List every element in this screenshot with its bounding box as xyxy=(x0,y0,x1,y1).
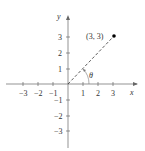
x-tick-label: 1 xyxy=(81,89,85,98)
y-tick-label: −3 xyxy=(54,127,63,136)
x-tick-label: 2 xyxy=(96,89,100,98)
y-tick-label: −2 xyxy=(54,112,63,121)
x-tick-label: 3 xyxy=(111,89,115,98)
point-marker xyxy=(112,34,116,38)
angle-arrow-icon xyxy=(83,69,86,72)
x-tick-label: −2 xyxy=(34,89,43,98)
y-axis-arrow-icon xyxy=(66,15,70,20)
y-tick-label: 1 xyxy=(58,65,62,74)
x-tick-label: −3 xyxy=(19,89,28,98)
y-axis-label: y xyxy=(56,12,61,21)
x-axis-arrow-icon xyxy=(133,82,138,86)
x-axis-label: x xyxy=(129,88,134,97)
coordinate-plane: −3 −2 −1 1 2 3 x 1 2 3 −1 −2 −3 y (3, 3)… xyxy=(0,0,145,151)
y-tick-label: 2 xyxy=(58,49,62,58)
y-tick-label: 3 xyxy=(58,33,62,42)
angle-label: θ xyxy=(89,71,93,80)
y-tick-label: −1 xyxy=(54,96,63,105)
point-label: (3, 3) xyxy=(86,32,104,41)
